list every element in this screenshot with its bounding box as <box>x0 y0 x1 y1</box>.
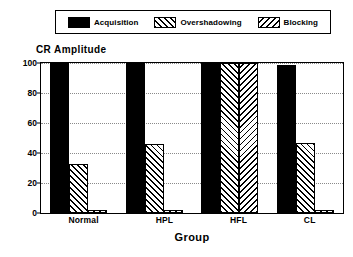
legend-item-acquisition: Acquisition <box>68 17 139 28</box>
bar-group <box>126 63 183 213</box>
y-axis-tick-label: 60 <box>28 118 37 128</box>
bar-groups <box>41 63 343 213</box>
x-axis-tick-label: Normal <box>68 215 99 225</box>
x-axis-tick-labels: NormalHPLHFLCL <box>40 215 344 225</box>
bar <box>50 63 69 213</box>
bar <box>315 210 334 213</box>
chart-legend: Acquisition Overshadowing Blocking <box>55 10 331 34</box>
bar <box>88 210 107 213</box>
bar <box>239 63 258 213</box>
bar <box>220 63 239 213</box>
y-axis-tick-label: 80 <box>28 88 37 98</box>
bar-group <box>201 63 258 213</box>
x-axis-tick-label: CL <box>304 215 316 225</box>
bar <box>277 65 296 214</box>
y-axis-tick-label: 100 <box>23 58 37 68</box>
bar <box>164 210 183 213</box>
legend-label-overshadowing: Overshadowing <box>180 18 241 27</box>
solid-swatch-icon <box>68 17 90 28</box>
x-axis-tick-label: HFL <box>230 215 247 225</box>
bar <box>126 63 145 213</box>
y-axis-tick-label: 20 <box>28 178 37 188</box>
forward-hatch-swatch-icon <box>154 17 176 28</box>
bar-group <box>277 63 334 213</box>
bar <box>69 164 88 214</box>
x-axis-label: Group <box>40 231 344 243</box>
legend-item-blocking: Blocking <box>258 17 319 28</box>
bar <box>145 144 164 213</box>
y-axis-tick-label: 0 <box>32 208 37 218</box>
backward-hatch-swatch-icon <box>258 17 280 28</box>
bar <box>296 143 315 214</box>
legend-label-acquisition: Acquisition <box>94 18 139 27</box>
legend-label-blocking: Blocking <box>284 18 319 27</box>
y-axis-tick-label: 40 <box>28 148 37 158</box>
y-axis-label: CR Amplitude <box>36 44 107 55</box>
legend-item-overshadowing: Overshadowing <box>154 17 241 28</box>
bar <box>201 63 220 213</box>
bar-group <box>50 63 107 213</box>
plot-area: 020406080100 <box>40 62 344 214</box>
x-axis-tick-label: HPL <box>156 215 174 225</box>
